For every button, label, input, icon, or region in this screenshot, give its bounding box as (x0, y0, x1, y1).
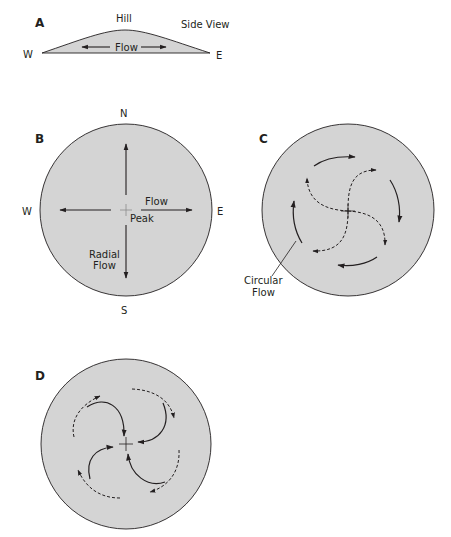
west-label-b: W (22, 206, 32, 217)
panel-c-label: C (259, 132, 268, 146)
south-label: S (121, 305, 127, 316)
north-label: N (120, 108, 127, 119)
circular-flow-label-1: Circular (244, 275, 283, 286)
diagram-canvas: A Hill Side View W E Flow B N S W E Flow… (0, 0, 451, 537)
flow-label-b: Flow (145, 196, 168, 207)
circular-flow-label-2: Flow (252, 287, 275, 298)
hill-title: Hill (116, 13, 132, 24)
panel-b: B N S W E Flow Peak Radial Flow (22, 108, 223, 316)
east-label-b: E (217, 206, 223, 217)
panel-d-label: D (35, 369, 45, 383)
panel-a-label: A (35, 16, 45, 30)
radial-flow-label-1: Radial (89, 249, 120, 260)
panel-b-label: B (35, 132, 44, 146)
panel-d: D (35, 359, 211, 529)
side-view-label: Side View (181, 19, 230, 30)
east-label-a: E (216, 50, 222, 61)
radial-flow-label-2: Flow (93, 260, 116, 271)
panel-a: A Hill Side View W E Flow (23, 13, 230, 61)
flow-label-a: Flow (115, 42, 138, 53)
panel-c: C Circular Flow (244, 124, 434, 298)
peak-label: Peak (130, 213, 154, 224)
west-label-a: W (23, 49, 33, 60)
